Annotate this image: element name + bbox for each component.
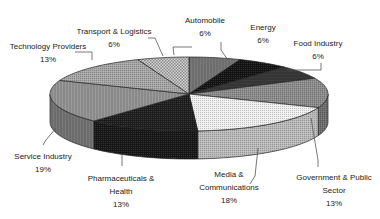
data-label: Media &Communications18% xyxy=(199,168,259,207)
data-label-category: Transport & Logistics xyxy=(77,25,152,38)
leader-line xyxy=(173,47,192,55)
pie-top-face xyxy=(50,57,328,131)
leader-line xyxy=(43,128,56,145)
data-label-category: Health xyxy=(88,185,155,198)
data-label: Service Industry19% xyxy=(14,150,71,176)
data-label-percent: 6% xyxy=(250,34,275,47)
data-label-percent: 19% xyxy=(14,163,71,176)
data-label: Transport & Logistics6% xyxy=(77,25,152,51)
data-label-category: Media & xyxy=(199,168,259,181)
leader-line xyxy=(221,42,228,60)
data-label-percent: 13% xyxy=(88,198,155,211)
data-label-category: Service Industry xyxy=(14,150,71,163)
data-label-category: Food Industry xyxy=(294,37,343,50)
data-label: Automobile6% xyxy=(185,14,225,40)
data-label: Government & PublicSector13% xyxy=(296,171,372,210)
data-label-percent: 6% xyxy=(294,50,343,63)
data-label: Energy6% xyxy=(250,21,275,47)
data-label-category: Sector xyxy=(296,184,372,197)
data-label-percent: 18% xyxy=(199,194,259,207)
data-label-percent: 6% xyxy=(77,38,152,51)
data-label-percent: 13% xyxy=(296,197,372,210)
data-label-category: Energy xyxy=(250,21,275,34)
data-label: Food Industry6% xyxy=(294,37,343,63)
data-label-category: Communications xyxy=(199,181,259,194)
data-label: Pharmaceuticals &Health13% xyxy=(88,172,155,211)
data-label-category: Pharmaceuticals & xyxy=(88,172,155,185)
data-label-percent: 13% xyxy=(10,53,86,66)
data-label-category: Automobile xyxy=(185,14,225,27)
data-label: Technology Providers13% xyxy=(10,40,86,66)
data-label-percent: 6% xyxy=(185,27,225,40)
data-label-category: Government & Public xyxy=(296,171,372,184)
data-label-category: Technology Providers xyxy=(10,40,86,53)
